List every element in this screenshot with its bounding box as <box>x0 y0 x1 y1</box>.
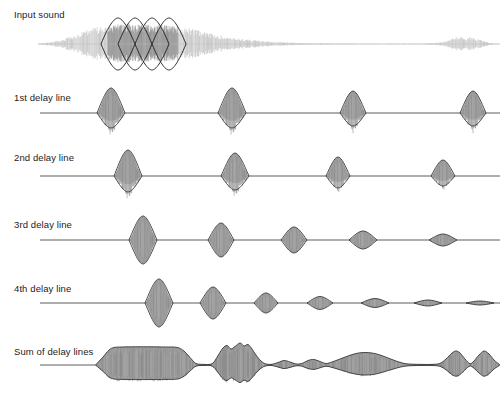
row-label-sum-of-delay-lines: Sum of delay lines <box>14 346 94 357</box>
row-label-input-sound: Input sound <box>14 9 65 20</box>
row-label-delay-line-3: 3rd delay line <box>14 219 72 230</box>
row-label-delay-line-4: 4th delay line <box>14 283 71 294</box>
figure-canvas: Input sound1st delay line2nd delay line3… <box>0 0 504 399</box>
row-label-delay-line-1: 1st delay line <box>14 92 71 103</box>
delay-line-figure: Input sound1st delay line2nd delay line3… <box>0 0 504 399</box>
row-label-delay-line-2: 2nd delay line <box>14 152 74 163</box>
figure-background <box>0 0 504 399</box>
